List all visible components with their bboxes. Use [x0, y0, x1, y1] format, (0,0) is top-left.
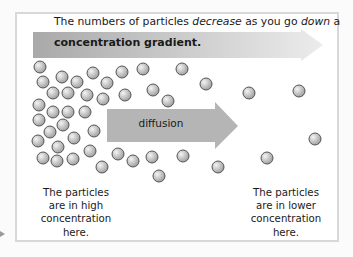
particle — [47, 106, 59, 118]
particle — [37, 152, 49, 164]
caption-line: here. — [26, 226, 126, 239]
particle — [147, 84, 159, 96]
caption-line: concentration — [236, 212, 336, 225]
particle — [47, 87, 59, 99]
particle — [177, 150, 189, 162]
particle — [243, 87, 255, 99]
caption-line: concentration — [26, 212, 126, 225]
caption-line: The particles — [26, 186, 126, 199]
particle — [44, 126, 56, 138]
particle — [261, 152, 273, 164]
particle — [81, 89, 93, 101]
caption-line: The particles — [236, 186, 336, 199]
particle — [200, 78, 212, 90]
particle — [71, 76, 83, 88]
particle — [34, 61, 46, 73]
particle — [62, 87, 74, 99]
particle — [137, 63, 149, 75]
particle — [32, 135, 44, 147]
particle — [57, 119, 69, 131]
caption-high-concentration: The particles are in high concentration … — [26, 186, 126, 239]
particle — [51, 155, 63, 167]
particle — [96, 161, 108, 173]
particle — [52, 141, 64, 153]
diffusion-label: diffusion — [107, 116, 215, 130]
particle — [68, 132, 80, 144]
particle — [212, 161, 224, 173]
caption-line: here. — [236, 226, 336, 239]
particle — [33, 114, 45, 126]
particle — [88, 125, 100, 137]
particle — [62, 106, 74, 118]
particle — [153, 170, 165, 182]
particle — [127, 155, 139, 167]
caption-lower-concentration: The particles are in lower concentration… — [236, 186, 336, 239]
particle — [146, 151, 158, 163]
particle — [101, 77, 113, 89]
caption-line: are in high — [26, 199, 126, 212]
particle — [87, 67, 99, 79]
caption-line: are in lower — [236, 199, 336, 212]
particle — [56, 71, 68, 83]
particle — [119, 89, 131, 101]
particle — [67, 153, 79, 165]
particle — [37, 76, 49, 88]
particle — [84, 145, 96, 157]
particle — [293, 85, 305, 97]
particle — [33, 99, 45, 111]
particle — [116, 66, 128, 78]
particle — [176, 63, 188, 75]
particle — [309, 133, 321, 145]
particle — [79, 106, 91, 118]
